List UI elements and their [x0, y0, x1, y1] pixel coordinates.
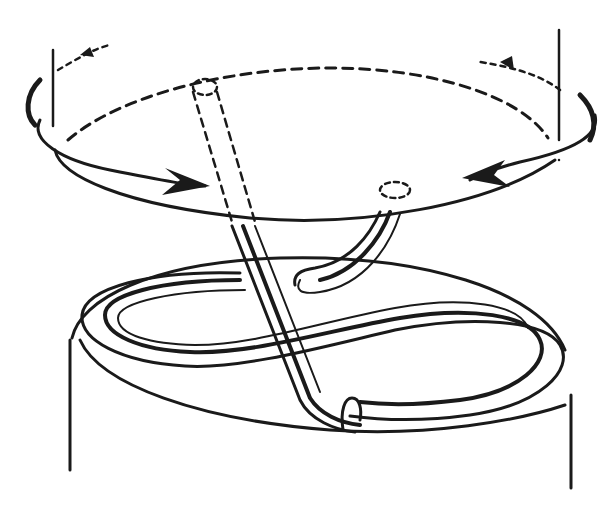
tube-left	[193, 79, 360, 432]
line-drawing	[0, 0, 615, 515]
rotating-disc	[38, 68, 596, 220]
rotation-axis-lines	[53, 30, 559, 160]
figure-eight-loop	[82, 273, 563, 420]
figure-canvas	[0, 0, 615, 515]
tube-right	[295, 182, 410, 293]
